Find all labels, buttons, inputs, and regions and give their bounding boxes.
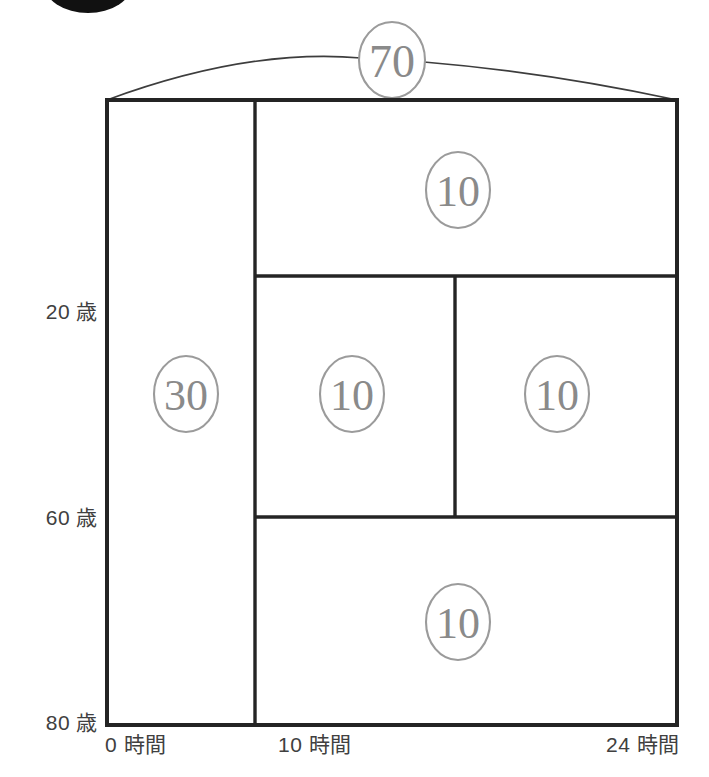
cell-badge-label: 10 [436, 167, 480, 216]
y-axis-label-60: 60 歳 [0, 501, 98, 531]
diagram-svg: 70 30 10 10 10 10 [0, 0, 709, 777]
x-axis-label-0h: 0 時間 [105, 728, 167, 758]
total-badge: 70 [359, 22, 425, 98]
cell-badge-top-right-block: 10 [426, 152, 490, 228]
diagram-canvas: 70 30 10 10 10 10 [0, 0, 709, 777]
cell-badge-label: 10 [330, 371, 374, 420]
x-axis-label-10h: 10 時間 [278, 728, 352, 758]
cell-badge-bottom-right-block: 10 [426, 584, 490, 660]
total-badge-label: 70 [369, 36, 415, 87]
brace-arc-right [424, 62, 677, 100]
cell-badge-label: 10 [436, 599, 480, 648]
y-axis-label-80: 80 歳 [0, 706, 98, 736]
cell-badge-label: 10 [535, 371, 579, 420]
top-ink-blob [44, 0, 132, 13]
cell-badge-label: 30 [164, 371, 208, 420]
x-axis-label-24h: 24 時間 [606, 728, 680, 758]
cell-badge-middle-right-block: 10 [525, 356, 589, 432]
cell-badge-middle-left-block: 10 [320, 356, 384, 432]
y-axis-label-20: 20 歳 [0, 295, 98, 325]
brace-arc-left [107, 56, 361, 100]
cell-badge-left-column-block: 30 [154, 356, 218, 432]
